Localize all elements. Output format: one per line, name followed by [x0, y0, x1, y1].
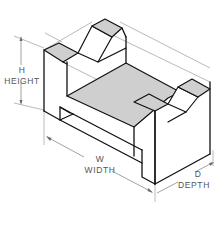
depth-dimension-label: D DEPTH [172, 170, 216, 189]
width-abbr: W [80, 155, 120, 164]
height-dimension-label: H HEIGHT [2, 66, 42, 85]
channel-floor [67, 63, 180, 127]
height-abbr: H [2, 66, 42, 75]
width-label: WIDTH [80, 166, 120, 175]
height-label: HEIGHT [2, 77, 42, 86]
depth-label: DEPTH [172, 181, 216, 190]
width-dimension-label: W WIDTH [80, 155, 120, 174]
left-top-pad [44, 43, 78, 62]
depth-abbr: D [172, 170, 216, 179]
